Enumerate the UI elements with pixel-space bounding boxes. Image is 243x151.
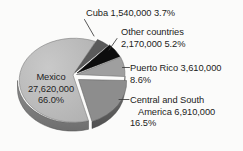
slice-label-cuba: Cuba 1,540,000 3.7% bbox=[86, 8, 175, 20]
slice-label-cuba-line1: Cuba 1,540,000 3.7% bbox=[86, 8, 175, 20]
slice-label-mexico-line3: 66.0% bbox=[14, 95, 88, 107]
slice-label-mexico: Mexico 27,620,000 66.0% bbox=[14, 72, 88, 107]
slice-label-mexico-line1: Mexico bbox=[14, 72, 88, 84]
slice-label-puerto-rico-line2: 8.6% bbox=[130, 75, 221, 87]
slice-label-central-south-america-line1: Central and South bbox=[130, 95, 215, 107]
slice-label-central-south-america: Central and South America 6,910,000 16.5… bbox=[130, 95, 215, 130]
slice-label-other-countries: Other countries 2,170,000 5.2% bbox=[121, 27, 185, 50]
slice-label-central-south-america-line3: 16.5% bbox=[130, 118, 215, 130]
slice-label-central-south-america-line2: America 6,910,000 bbox=[130, 107, 215, 119]
slice-label-other-countries-line1: Other countries bbox=[121, 27, 185, 39]
slice-label-other-countries-line2: 2,170,000 5.2% bbox=[121, 39, 185, 51]
slice-label-puerto-rico: Puerto Rico 3,610,000 8.6% bbox=[130, 63, 221, 86]
slice-label-puerto-rico-line1: Puerto Rico 3,610,000 bbox=[130, 63, 221, 75]
slice-label-mexico-line2: 27,620,000 bbox=[14, 84, 88, 96]
pie-chart-figure: Cuba 1,540,000 3.7% Other countries 2,17… bbox=[0, 0, 243, 151]
leader-line-cuba bbox=[85, 20, 95, 37]
